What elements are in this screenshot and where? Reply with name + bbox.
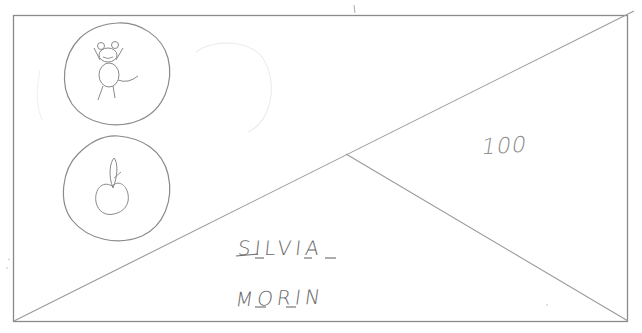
score-value: 100: [480, 132, 529, 159]
stray-mark: [6, 259, 10, 268]
player-first-name: SILVIA: [237, 236, 324, 260]
mouse-character-icon: [64, 23, 169, 125]
apple-icon: [63, 136, 169, 241]
sketch-lines: [0, 0, 642, 333]
player-last-name: MORIN: [234, 284, 326, 311]
diagonal-line-main: [14, 11, 634, 321]
erased-mark: [37, 70, 42, 120]
diagonal-line-secondary: [346, 154, 628, 321]
stray-dot: [546, 304, 548, 306]
wireframe-card: 100 SILVIA MORIN: [0, 0, 642, 333]
erased-circle-mark: [196, 43, 271, 132]
stray-mark: [354, 5, 355, 13]
